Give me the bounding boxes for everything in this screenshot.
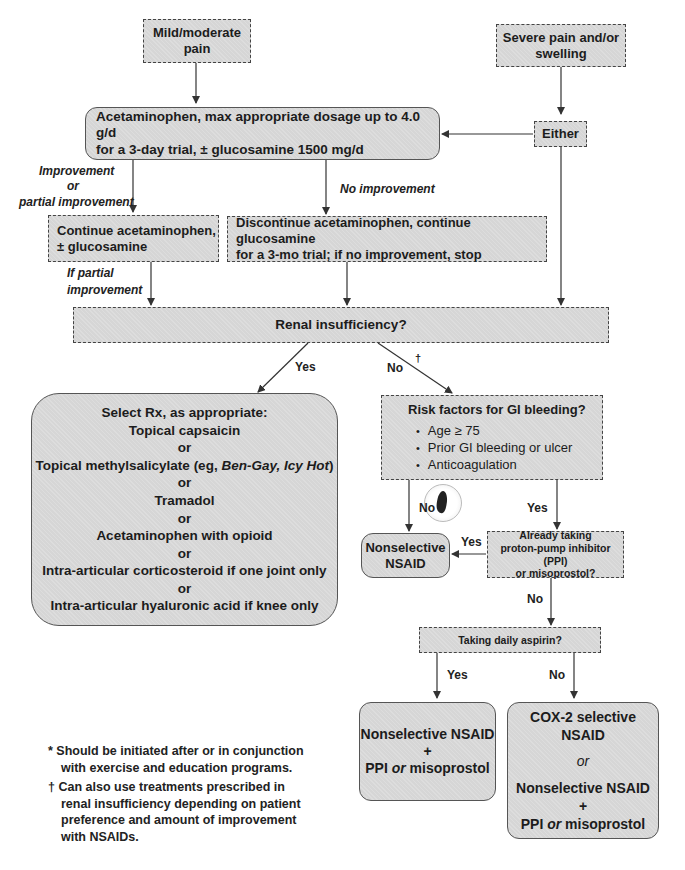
nonselective-line2: NSAID — [385, 556, 425, 572]
rx-option-hyaluronic: Intra-articular hyaluronic acid if knee … — [51, 597, 319, 615]
rx-brand-names: Ben-Gay, Icy Hot — [221, 458, 329, 473]
rx-or-separator: or — [178, 580, 192, 598]
discontinue-acetaminophen-node: Discontinue acetaminophen, continue gluc… — [227, 216, 547, 262]
dagger-line3: preference and amount of improvement — [48, 812, 301, 829]
severe-pain-node: Severe pain and/or swelling — [496, 24, 626, 67]
mild-pain-line2: pain — [184, 41, 211, 57]
select-rx-node: Select Rx, as appropriate: Topical capsa… — [31, 393, 338, 626]
acetaminophen-line2: for a 3-day trial, ± glucosamine 1500 mg… — [96, 142, 364, 158]
label-renal-no: No — [387, 361, 403, 375]
label-aspirin-no: No — [549, 668, 565, 682]
label-ppi-no: No — [527, 592, 543, 606]
nonselective-nsaid-node: Nonselective NSAID — [361, 533, 450, 578]
nsaid-ppi-line2: PPI or misoprostol — [365, 760, 489, 777]
mild-pain-line1: Mild/moderate — [153, 25, 241, 41]
dagger-line4: with NSAIDs. — [48, 829, 301, 846]
continue-line2: ± glucosamine — [57, 239, 147, 255]
nonselective-line1: Nonselective — [365, 540, 445, 556]
asterisk-line1: Should be initiated after or in conjunct… — [56, 744, 303, 758]
asterisk-mark: * — [48, 744, 53, 758]
rx-or-separator: or — [178, 510, 192, 528]
label-ppi-yes: Yes — [461, 535, 482, 549]
label-gi-no: No — [419, 501, 435, 515]
label-gi-yes: Yes — [527, 501, 548, 515]
severe-pain-line2: swelling — [535, 46, 586, 62]
cox2-or-nsaid-ppi-node: COX-2 selective NSAID or Nonselective NS… — [507, 702, 659, 839]
rx-option-capsaicin: Topical capsaicin — [129, 422, 241, 440]
rx-option-acetaminophen-opioid: Acetaminophen with opioid — [96, 527, 272, 545]
label-dagger: † — [415, 352, 421, 364]
dagger-mark: † — [48, 780, 55, 794]
footnote-dagger: † Can also use treatments prescribed in … — [48, 779, 301, 845]
rx-or-separator: or — [178, 545, 192, 563]
asterisk-line2: with exercise and education programs. — [48, 760, 304, 777]
cox2-line: COX-2 selective NSAID — [508, 708, 658, 744]
dagger-line2: renal insufficiency depending on patient — [48, 796, 301, 813]
nsaid-ppi-plus: + — [423, 743, 431, 760]
select-rx-title: Select Rx, as appropriate: — [102, 404, 268, 422]
gi-risk-title: Risk factors for GI bleeding? — [408, 402, 586, 418]
acetaminophen-trial-node: Acetaminophen, max appropriate dosage up… — [85, 107, 440, 160]
footnote-asterisk: * Should be initiated after or in conjun… — [48, 743, 304, 776]
label-or: or — [67, 179, 79, 193]
discontinue-line2: for a 3-mo trial; if no improvement, sto… — [236, 247, 482, 263]
dagger-line1: Can also use treatments prescribed in — [58, 780, 284, 794]
label-no-improvement: No improvement — [340, 182, 435, 196]
renal-question: Renal insufficiency? — [275, 317, 406, 333]
label-partial-improvement: partial improvement — [19, 195, 134, 209]
gi-risk-anticoagulation: Anticoagulation — [432, 456, 572, 473]
rx-or-separator: or — [178, 439, 192, 457]
ppi-line1: Already taking — [519, 529, 591, 542]
rx-option-corticosteroid: Intra-articular corticosteroid if one jo… — [42, 562, 326, 580]
gi-risk-prior-bleeding: Prior GI bleeding or ulcer — [432, 439, 572, 456]
renal-insufficiency-node: Renal insufficiency? — [73, 307, 609, 343]
continue-line1: Continue acetaminophen, — [57, 223, 216, 239]
rx-option-tramadol: Tramadol — [154, 492, 214, 510]
mild-moderate-pain-node: Mild/moderate pain — [143, 19, 251, 63]
discontinue-line1: Discontinue acetaminophen, continue gluc… — [236, 215, 546, 247]
label-if-partial: If partial — [67, 266, 114, 280]
label-improvement: Improvement — [39, 164, 114, 178]
gi-risk-list: Age ≥ 75 Prior GI bleeding or ulcer Anti… — [408, 422, 572, 473]
severe-pain-line1: Severe pain and/or — [503, 30, 619, 46]
label-renal-yes: Yes — [295, 360, 316, 374]
cox2-or: or — [577, 752, 589, 770]
nsaid-ppi-line1: Nonselective NSAID — [361, 726, 495, 743]
ppi-line3: or misoprostol? — [516, 567, 596, 580]
ppi-line2: proton-pump inhibitor (PPI) — [488, 542, 623, 568]
rx-or-separator: or — [178, 474, 192, 492]
gi-risk-factors-node: Risk factors for GI bleeding? Age ≥ 75 P… — [381, 395, 603, 480]
cox2-nsaid-line: Nonselective NSAID — [516, 779, 650, 797]
gi-risk-age: Age ≥ 75 — [432, 422, 572, 439]
cox2-ppi-line: PPI or misoprostol — [521, 815, 645, 833]
aspirin-question: Taking daily aspirin? — [458, 634, 562, 647]
already-taking-ppi-node: Already taking proton-pump inhibitor (PP… — [487, 531, 624, 578]
label-improvement-2: improvement — [67, 283, 142, 297]
nsaid-plus-ppi-node: Nonselective NSAID + PPI or misoprostol — [359, 702, 496, 801]
either-label: Either — [542, 126, 579, 142]
label-aspirin-yes: Yes — [447, 668, 468, 682]
either-node: Either — [534, 121, 587, 147]
cox2-plus: + — [579, 797, 587, 815]
acetaminophen-line1: Acetaminophen, max appropriate dosage up… — [96, 109, 439, 142]
rx-option-methylsalicylate: Topical methylsalicylate (eg, Ben-Gay, I… — [36, 457, 334, 475]
continue-acetaminophen-node: Continue acetaminophen, ± glucosamine — [48, 215, 219, 262]
daily-aspirin-node: Taking daily aspirin? — [419, 627, 601, 653]
